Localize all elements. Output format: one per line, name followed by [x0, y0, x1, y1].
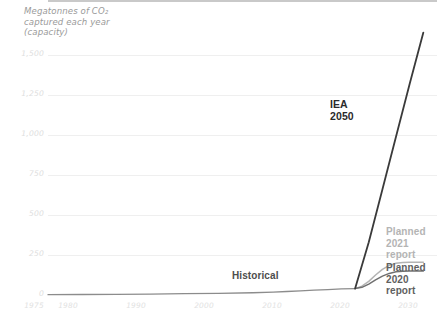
plot-area: 1,500 1,250 1,000 750 500 250 0 1975 198… [0, 0, 447, 326]
line-historical [48, 289, 355, 295]
annotation-planned-2021: Planned 2021 report [386, 226, 426, 261]
annotation-iea-2050: IEA 2050 [330, 99, 354, 122]
annotation-historical: Historical [232, 270, 279, 282]
series-lines [0, 0, 447, 326]
annotation-planned-2020: Planned 2020 report [386, 262, 426, 297]
co2-capture-line-chart: Megatonnes of CO₂ captured each year (ca… [0, 0, 447, 326]
